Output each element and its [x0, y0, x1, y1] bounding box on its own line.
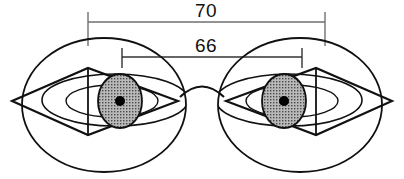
dimension-inner-66: 66 — [122, 35, 302, 68]
diagram-canvas: 70 66 — [0, 0, 404, 179]
right-eye-group — [216, 38, 392, 172]
right-eye-pupil — [279, 96, 289, 106]
dimension-inner-label: 66 — [195, 35, 217, 56]
dimension-outer-label: 70 — [195, 0, 217, 21]
left-eye-group — [12, 38, 188, 172]
eye-measurement-diagram: 70 66 — [0, 0, 404, 179]
left-eye-pupil — [115, 96, 125, 106]
nose-bridge-arc — [180, 87, 224, 98]
